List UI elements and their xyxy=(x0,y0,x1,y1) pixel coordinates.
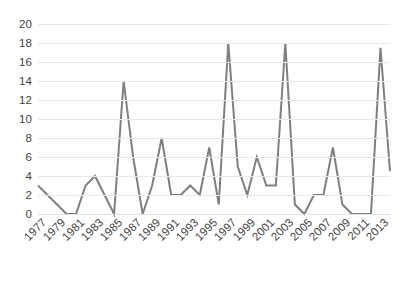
y-tick-label: 4 xyxy=(26,170,33,182)
y-tick-label: 12 xyxy=(19,94,32,106)
gridline xyxy=(38,138,390,139)
gridline xyxy=(38,100,390,101)
gridline xyxy=(38,195,390,196)
gridline xyxy=(38,62,390,63)
x-axis: 1977197919811983198519871989199119931995… xyxy=(38,216,390,280)
y-tick-label: 18 xyxy=(19,37,32,49)
gridline xyxy=(38,119,390,120)
y-tick-label: 14 xyxy=(19,75,32,87)
gridline xyxy=(38,214,390,215)
y-tick-label: 6 xyxy=(26,151,33,163)
y-tick-label: 20 xyxy=(19,18,32,30)
y-tick-label: 2 xyxy=(26,189,33,201)
gridline xyxy=(38,24,390,25)
y-tick-label: 0 xyxy=(26,208,33,220)
gridline xyxy=(38,176,390,177)
plot-area xyxy=(38,24,390,214)
y-tick-label: 10 xyxy=(19,113,32,125)
gridline xyxy=(38,81,390,82)
y-tick-label: 16 xyxy=(19,56,32,68)
gridline xyxy=(38,43,390,44)
gridline xyxy=(38,157,390,158)
chart-page: 20181614121086420 1977197919811983198519… xyxy=(0,0,412,284)
y-axis: 20181614121086420 xyxy=(0,24,32,214)
series-polyline xyxy=(38,43,390,214)
y-tick-label: 8 xyxy=(26,132,33,144)
